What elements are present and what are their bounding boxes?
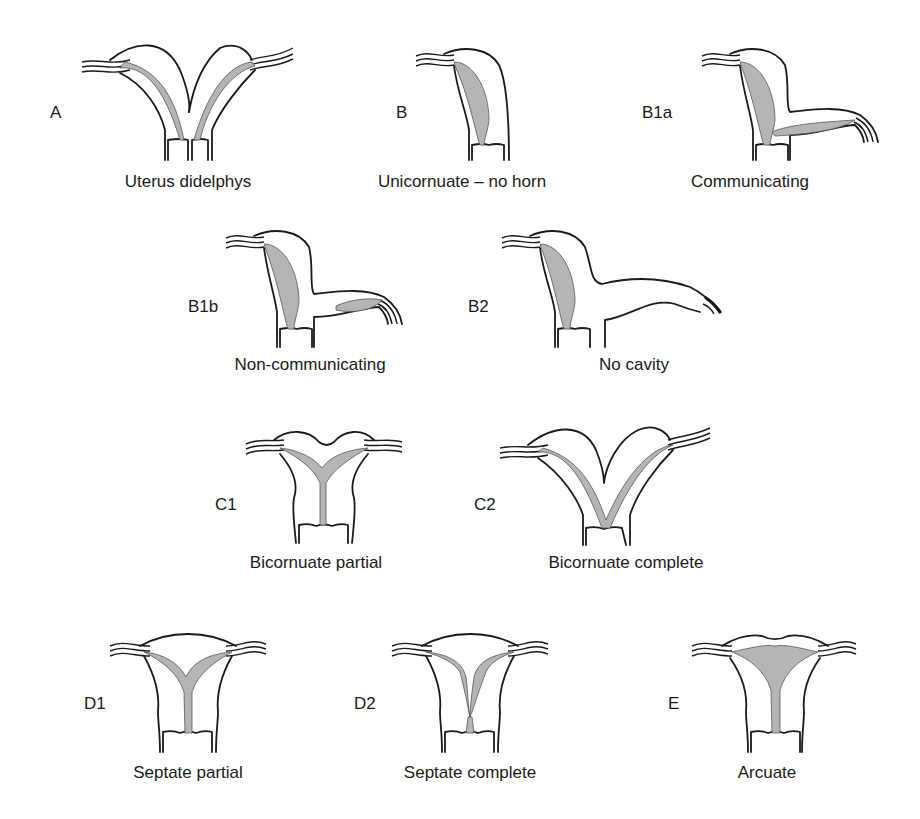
no-cavity-horn-diagram — [500, 232, 730, 352]
panel-letter: C1 — [215, 495, 237, 515]
panel-letter: B — [396, 103, 407, 123]
panel-letter: E — [668, 694, 679, 714]
panel-letter: D1 — [84, 694, 106, 714]
panel-letter: D2 — [354, 694, 376, 714]
panel-caption: Communicating — [691, 172, 809, 192]
bicornuate-complete-diagram — [498, 420, 718, 550]
arcuate-uterus-diagram — [690, 630, 860, 752]
panel-letter: B2 — [468, 297, 489, 317]
panel-letter: C2 — [474, 495, 496, 515]
septate-partial-diagram — [108, 632, 268, 752]
panel-caption: Septate complete — [404, 763, 536, 783]
bicornuate-partial-diagram — [244, 428, 404, 548]
panel-letter: A — [50, 103, 61, 123]
non-communicating-horn-diagram — [224, 232, 414, 352]
panel-caption: Arcuate — [738, 763, 797, 783]
panel-caption: Unicornuate – no horn — [378, 172, 546, 192]
uterus-didelphys-diagram — [80, 40, 300, 165]
panel-caption: Non-communicating — [234, 355, 385, 375]
panel-caption: No cavity — [599, 355, 669, 375]
panel-caption: Uterus didelphys — [125, 172, 252, 192]
unicornuate-no-horn-diagram — [414, 50, 524, 170]
panel-caption: Septate partial — [133, 763, 243, 783]
panel-caption: Bicornuate complete — [549, 553, 704, 573]
panel-letter: B1b — [188, 297, 218, 317]
panel-caption: Bicornuate partial — [250, 553, 382, 573]
septate-complete-diagram — [390, 632, 550, 752]
communicating-horn-diagram — [650, 50, 880, 170]
